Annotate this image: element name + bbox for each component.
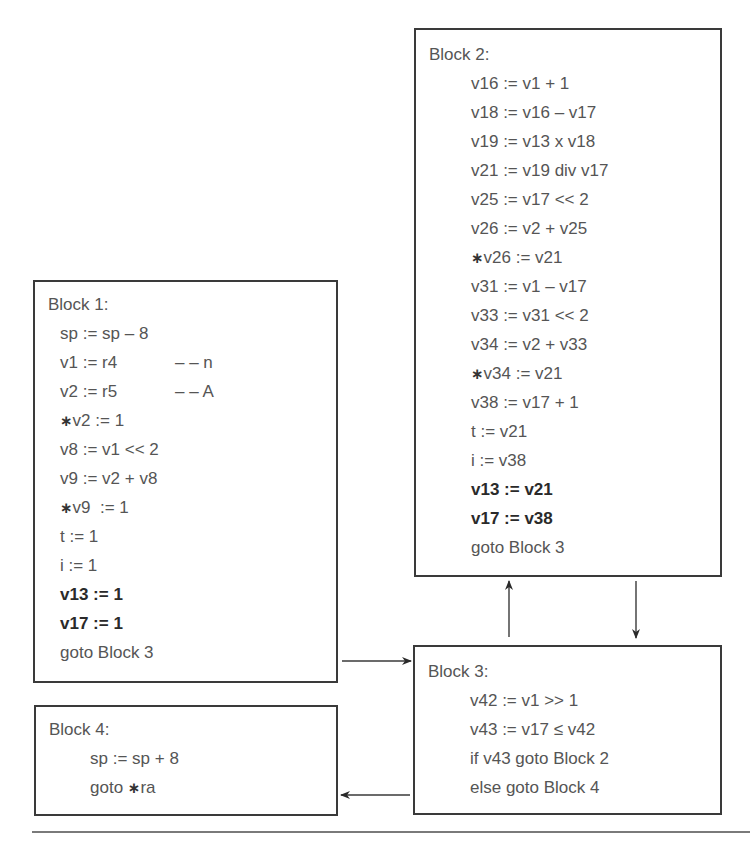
dereference-star-icon: ∗ bbox=[60, 412, 73, 429]
code-line: v18 := v16 – v17 bbox=[471, 98, 609, 127]
code-comment: – – n bbox=[175, 348, 213, 377]
code-line: v26 := v2 + v25 bbox=[471, 214, 609, 243]
code-line: ∗v2 := 1 bbox=[60, 406, 159, 435]
block-3-title: Block 3: bbox=[428, 657, 488, 686]
code-line: if v43 goto Block 2 bbox=[470, 744, 609, 773]
block-1: Block 1: sp := sp – 8 v1 := r4– – n v2 :… bbox=[33, 280, 338, 683]
code-line: v19 := v13 x v18 bbox=[471, 127, 609, 156]
block-2-lines: v16 := v1 + 1 v18 := v16 – v17 v19 := v1… bbox=[471, 69, 609, 562]
code-line: v34 := v2 + v33 bbox=[471, 330, 609, 359]
code-line: goto ∗ra bbox=[90, 773, 179, 802]
block-2-title: Block 2: bbox=[429, 40, 489, 69]
block-4: Block 4: sp := sp + 8 goto ∗ra bbox=[34, 705, 338, 816]
code-comment: – – A bbox=[175, 377, 214, 406]
dereference-star-icon: ∗ bbox=[128, 779, 141, 796]
code-line-bold: v17 := 1 bbox=[60, 609, 159, 638]
block-1-title: Block 1: bbox=[48, 290, 108, 319]
code-line: i := 1 bbox=[60, 551, 159, 580]
code-line: v31 := v1 – v17 bbox=[471, 272, 609, 301]
code-line: sp := sp + 8 bbox=[90, 744, 179, 773]
bottom-rule-divider bbox=[32, 831, 750, 833]
code-line: v9 := v2 + v8 bbox=[60, 464, 159, 493]
block-2: Block 2: v16 := v1 + 1 v18 := v16 – v17 … bbox=[414, 28, 722, 577]
code-line: v16 := v1 + 1 bbox=[471, 69, 609, 98]
code-line: v38 := v17 + 1 bbox=[471, 388, 609, 417]
code-line: ∗v9 := 1 bbox=[60, 493, 159, 522]
code-line: v2 := r5– – A bbox=[60, 377, 159, 406]
code-line: ∗v26 := v21 bbox=[471, 243, 609, 272]
code-line: v1 := r4– – n bbox=[60, 348, 159, 377]
code-line: ∗v34 := v21 bbox=[471, 359, 609, 388]
code-line: goto Block 3 bbox=[60, 638, 159, 667]
code-line-bold: v17 := v38 bbox=[471, 504, 609, 533]
code-line: t := v21 bbox=[471, 417, 609, 446]
code-line-bold: v13 := v21 bbox=[471, 475, 609, 504]
code-line: sp := sp – 8 bbox=[60, 319, 159, 348]
code-line: v43 := v17 ≤ v42 bbox=[470, 715, 609, 744]
code-line: v33 := v31 << 2 bbox=[471, 301, 609, 330]
dereference-star-icon: ∗ bbox=[471, 365, 484, 382]
code-line-bold: v13 := 1 bbox=[60, 580, 159, 609]
block-4-lines: sp := sp + 8 goto ∗ra bbox=[90, 744, 179, 802]
block-3-lines: v42 := v1 >> 1 v43 := v17 ≤ v42 if v43 g… bbox=[470, 686, 609, 802]
dereference-star-icon: ∗ bbox=[60, 499, 73, 516]
code-line: v21 := v19 div v17 bbox=[471, 156, 609, 185]
code-line: t := 1 bbox=[60, 522, 159, 551]
block-1-lines: sp := sp – 8 v1 := r4– – n v2 := r5– – A… bbox=[60, 319, 159, 667]
code-line: v42 := v1 >> 1 bbox=[470, 686, 609, 715]
code-line: v8 := v1 << 2 bbox=[60, 435, 159, 464]
block-3: Block 3: v42 := v1 >> 1 v43 := v17 ≤ v42… bbox=[413, 645, 722, 815]
dereference-star-icon: ∗ bbox=[471, 249, 484, 266]
code-line: i := v38 bbox=[471, 446, 609, 475]
code-line: else goto Block 4 bbox=[470, 773, 609, 802]
code-line: goto Block 3 bbox=[471, 533, 609, 562]
code-line: v25 := v17 << 2 bbox=[471, 185, 609, 214]
block-4-title: Block 4: bbox=[49, 715, 109, 744]
